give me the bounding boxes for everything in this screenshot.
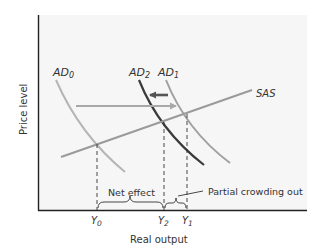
y2-tick-label: Y2 bbox=[158, 215, 169, 228]
plot-area bbox=[38, 15, 307, 210]
y0-tick-label: Y0 bbox=[91, 215, 102, 228]
x-axis-title: Real output bbox=[130, 234, 188, 245]
y-axis-title: Price level bbox=[18, 84, 29, 135]
partial-crowding-out-label: Partial crowding out bbox=[208, 186, 303, 197]
net-effect-label: Net effect bbox=[108, 187, 155, 198]
crowding-out-diagram: AD0 AD2 AD1 SAS Net effect Partial crowd… bbox=[0, 0, 323, 252]
sas-label: SAS bbox=[256, 88, 276, 99]
y1-tick-label: Y1 bbox=[182, 215, 193, 228]
